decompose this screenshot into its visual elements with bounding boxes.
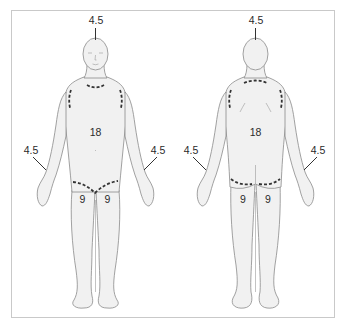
front-left-arm-percent: 4.5 [24, 144, 39, 156]
back-trunk-percent: 18 [250, 126, 262, 138]
front-head-percent: 4.5 [89, 14, 104, 26]
back-right-arm-leader [304, 157, 317, 170]
front-left-arm [37, 92, 66, 206]
back-right-arm [285, 92, 314, 206]
back-left-arm-percent: 4.5 [184, 144, 199, 156]
back-left-arm-leader [193, 157, 206, 170]
front-right-arm [125, 92, 154, 206]
front-head [83, 38, 108, 70]
back-head [243, 38, 268, 70]
front-left-arm-leader [33, 157, 46, 170]
front-trunk-percent: 18 [90, 126, 102, 138]
front-figure: 4.5 18 4.5 4.5 9 9 [24, 14, 166, 308]
back-head-percent: 4.5 [249, 14, 264, 26]
rule-of-nines-diagram: 4.5 18 4.5 4.5 9 9 4.5 [0, 0, 341, 327]
back-right-arm-percent: 4.5 [311, 144, 326, 156]
front-right-arm-percent: 4.5 [151, 144, 166, 156]
front-left-leg [71, 190, 95, 308]
back-left-arm [197, 92, 226, 206]
front-right-leg-percent: 9 [105, 193, 111, 205]
front-right-arm-leader [144, 157, 157, 170]
back-figure: 4.5 18 4.5 4.5 9 9 [184, 14, 326, 308]
back-left-leg-percent: 9 [240, 193, 246, 205]
front-right-leg [96, 190, 120, 308]
front-left-leg-percent: 9 [80, 193, 86, 205]
back-right-leg-percent: 9 [265, 193, 271, 205]
